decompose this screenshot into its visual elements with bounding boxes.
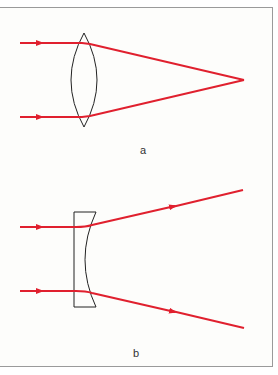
ray-top [38, 43, 244, 80]
panel-b-diagram [20, 190, 244, 328]
ray-bottom [38, 80, 244, 117]
biconvex-lens [71, 33, 97, 127]
optics-diagram [0, 0, 278, 375]
panel-a-diagram [20, 33, 244, 127]
ray-top [38, 206, 175, 227]
panel-b-label: b [133, 347, 139, 359]
ray-bottom [38, 291, 175, 312]
panel-a-label: a [140, 144, 146, 156]
